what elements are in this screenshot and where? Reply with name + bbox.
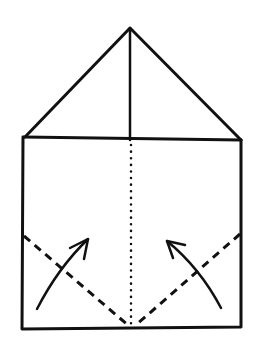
roof-triangle bbox=[25, 28, 241, 140]
diagram-svg bbox=[0, 0, 259, 345]
right-valley-fold-line bbox=[136, 234, 240, 325]
fold-diagram bbox=[0, 0, 259, 345]
roof-base-line bbox=[24, 137, 241, 140]
left-fold-arrow-icon bbox=[37, 239, 88, 309]
